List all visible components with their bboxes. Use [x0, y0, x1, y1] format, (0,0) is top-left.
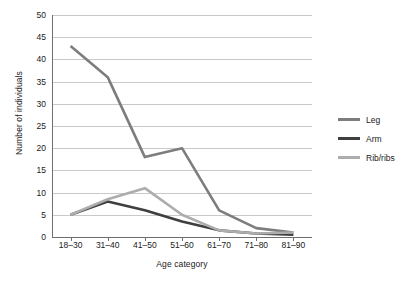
- chart-legend: LegArmRib/ribs: [338, 110, 412, 167]
- legend-item-label: Rib/ribs: [366, 153, 395, 163]
- y-axis-tick-label: 10: [24, 189, 46, 198]
- y-axis-tick-label: 5: [24, 211, 46, 220]
- x-axis-tick-label: 81–90: [267, 240, 319, 250]
- legend-item-label: Leg: [366, 115, 380, 125]
- y-axis-tick-label: 20: [24, 144, 46, 153]
- y-axis-title: Number of individuals: [14, 48, 24, 178]
- legend-item[interactable]: Arm: [338, 129, 412, 148]
- legend-item[interactable]: Rib/ribs: [338, 148, 412, 167]
- line-chart: Number of individuals 051015202530354045…: [0, 0, 412, 283]
- plot-area: [52, 15, 312, 237]
- y-axis-tick-label: 0: [24, 233, 46, 242]
- legend-item[interactable]: Leg: [338, 110, 412, 129]
- y-axis-tick-label: 15: [24, 166, 46, 175]
- legend-item-label: Arm: [366, 134, 382, 144]
- series-line: [71, 46, 294, 232]
- legend-color-swatch: [338, 118, 360, 122]
- y-axis-tick-label: 35: [24, 78, 46, 87]
- y-axis-tick-label: 30: [24, 100, 46, 109]
- y-axis-tick-label: 50: [24, 11, 46, 20]
- x-axis-title: Age category: [52, 259, 312, 269]
- y-axis-tick-label: 40: [24, 55, 46, 64]
- legend-color-swatch: [338, 137, 360, 141]
- y-axis-tick-label: 25: [24, 122, 46, 131]
- legend-color-swatch: [338, 156, 360, 160]
- y-axis-tick-label: 45: [24, 33, 46, 42]
- series-line: [71, 188, 294, 233]
- series-lines: [52, 15, 312, 237]
